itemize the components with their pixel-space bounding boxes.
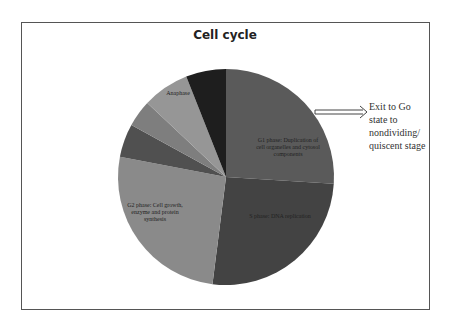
pie-slices xyxy=(118,69,334,285)
annotation-line-1: Exit to Go xyxy=(369,100,449,113)
label-g1-3: components xyxy=(274,151,304,157)
pie-slice-1 xyxy=(212,177,333,285)
exit-annotation: Exit to Go state to nondividing/ quiscen… xyxy=(369,100,449,152)
exit-arrow-icon xyxy=(315,106,367,118)
label-g2-3: synthesis xyxy=(144,216,167,222)
label-s: S phase: DNA replication xyxy=(249,213,311,219)
label-g2: G2 phase: Cell growth, xyxy=(127,202,183,208)
label-g1-2: cell organelles and cytosol xyxy=(256,144,320,150)
label-g2-2: enzyme and protein xyxy=(131,209,178,215)
pie-chart: G1 phase: Duplication of cell organelles… xyxy=(0,0,450,325)
pie-slice-0 xyxy=(226,69,334,184)
pie-slice-2 xyxy=(118,157,226,284)
annotation-line-4: quiscent stage xyxy=(369,139,449,152)
annotation-line-3: nondividing/ xyxy=(369,126,449,139)
annotation-line-2: state to xyxy=(369,113,449,126)
label-g1: G1 phase: Duplication of xyxy=(258,137,319,143)
label-anaphase: Anaphase xyxy=(166,90,190,96)
